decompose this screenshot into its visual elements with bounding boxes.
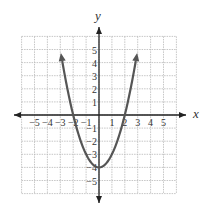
parabola-graph: −5−4−3−2−11234554321−1−2−3−4−5 x y bbox=[0, 0, 209, 212]
y-tick-label: 1 bbox=[92, 97, 97, 108]
x-tick-label: 3 bbox=[135, 117, 140, 128]
y-tick-label: 2 bbox=[92, 84, 97, 95]
y-tick-label: 3 bbox=[92, 71, 97, 82]
y-tick-label: −5 bbox=[86, 176, 97, 187]
x-tick-label: 4 bbox=[148, 117, 153, 128]
y-tick-label: −1 bbox=[86, 123, 97, 134]
x-axis-label: x bbox=[192, 106, 199, 121]
y-tick-label: 4 bbox=[92, 58, 97, 69]
x-tick-label: 5 bbox=[161, 117, 166, 128]
y-tick-label: −2 bbox=[86, 136, 97, 147]
axes bbox=[14, 27, 186, 203]
x-tick-label: 1 bbox=[109, 117, 114, 128]
x-tick-label: −5 bbox=[29, 117, 40, 128]
y-tick-label: 5 bbox=[92, 45, 97, 56]
y-axis-label: y bbox=[93, 8, 101, 23]
x-tick-label: −4 bbox=[42, 117, 53, 128]
x-tick-label: −3 bbox=[55, 117, 66, 128]
